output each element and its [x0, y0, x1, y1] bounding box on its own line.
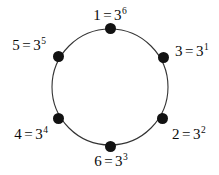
node-top-power-base: 3 [114, 7, 122, 23]
node-bottom [105, 141, 116, 152]
node-lower-right-label: 2=32 [172, 127, 206, 142]
node-top-exponent: 6 [122, 6, 127, 16]
node-upper-right-power-base: 3 [196, 43, 204, 59]
node-upper-left-power-base: 3 [33, 37, 41, 53]
cyclic-group-diagram: 1=363=312=326=334=345=35 [0, 0, 219, 175]
node-upper-left [53, 51, 64, 62]
node-lower-left-value: 4 [14, 126, 22, 142]
node-bottom-exponent: 3 [123, 152, 128, 162]
node-top-value: 1 [93, 7, 101, 23]
node-upper-left-value: 5 [12, 37, 20, 53]
node-lower-left-exponent: 4 [43, 125, 48, 135]
node-bottom-label: 6=33 [94, 154, 128, 169]
node-lower-left-label: 4=34 [14, 127, 48, 142]
node-lower-right-exponent: 2 [201, 125, 206, 135]
node-top [105, 23, 116, 34]
node-top-equals-sign: = [103, 7, 112, 23]
node-lower-right-equals-sign: = [182, 126, 191, 142]
node-lower-left-power-base: 3 [35, 126, 43, 142]
node-bottom-power-base: 3 [115, 153, 123, 169]
node-upper-left-exponent: 5 [41, 36, 46, 46]
node-top-label: 1=36 [93, 8, 127, 23]
node-lower-right-value: 2 [172, 126, 180, 142]
node-upper-left-equals-sign: = [22, 37, 31, 53]
node-lower-left-equals-sign: = [24, 126, 33, 142]
node-bottom-equals-sign: = [104, 153, 113, 169]
node-lower-right [157, 113, 168, 124]
node-upper-right [158, 52, 169, 63]
node-lower-right-power-base: 3 [193, 126, 201, 142]
node-lower-left [53, 113, 64, 124]
node-bottom-value: 6 [94, 153, 102, 169]
node-upper-right-label: 3=31 [175, 44, 209, 59]
node-upper-right-exponent: 1 [204, 42, 209, 52]
node-upper-right-equals-sign: = [185, 43, 194, 59]
node-upper-left-label: 5=35 [12, 38, 46, 53]
node-upper-right-value: 3 [175, 43, 183, 59]
